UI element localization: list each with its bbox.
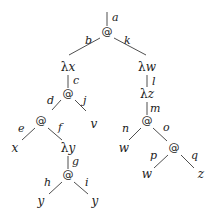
variable-node: w	[119, 141, 130, 155]
application-node: @	[63, 87, 74, 100]
edge-label-p: p	[150, 149, 157, 162]
edge-label-o: o	[163, 121, 170, 134]
edge-label-b: b	[85, 34, 92, 47]
lambda-node: λw	[138, 60, 157, 74]
edge-label-d: d	[47, 94, 54, 107]
edge-label-a: a	[112, 11, 119, 24]
edge-label-f: f	[57, 121, 64, 134]
application-node: @	[169, 141, 180, 154]
lambda-node: λz	[140, 87, 155, 101]
application-node: @	[63, 168, 74, 181]
variable-node: z	[197, 167, 205, 181]
application-node: @	[102, 25, 113, 38]
edge-label-j: j	[80, 94, 87, 107]
edge-label-e: e	[18, 122, 25, 135]
variable-node: v	[91, 117, 98, 131]
edge-label-h: h	[44, 176, 51, 189]
edge-label-k: k	[124, 34, 131, 47]
edge-label-q: q	[191, 149, 198, 162]
variable-node: w	[142, 167, 153, 181]
lambda-term-tree-diagram: abkcdjefghilmnopq @λx@@vxλy@yyλwλz@w@wz	[0, 0, 212, 216]
variable-node: y	[91, 194, 99, 208]
edge-label-c: c	[73, 74, 79, 87]
variable-node: y	[37, 194, 45, 208]
edge-label-g: g	[72, 155, 79, 168]
edge-n	[129, 128, 141, 140]
lambda-node: λx	[61, 60, 76, 74]
tree-nodes: @λx@@vxλy@yyλwλz@w@wz	[12, 25, 205, 208]
application-node: @	[142, 114, 153, 127]
edge-label-n: n	[122, 122, 129, 135]
lambda-node: λy	[61, 141, 76, 155]
edge-label-i: i	[85, 176, 89, 189]
variable-node: x	[12, 141, 19, 155]
application-node: @	[36, 114, 47, 127]
